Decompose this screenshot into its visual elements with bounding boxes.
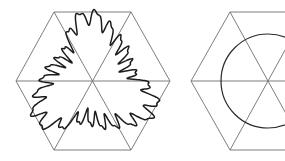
geometry-figure-svg <box>0 0 285 161</box>
figure-canvas <box>0 0 285 161</box>
